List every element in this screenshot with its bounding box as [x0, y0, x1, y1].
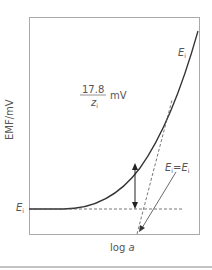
- y-axis-label: EMF/mV: [4, 99, 15, 140]
- fraction-denominator: zi: [91, 97, 98, 109]
- fraction-numerator: 17.8: [82, 84, 104, 95]
- emf-diagram: [0, 0, 212, 270]
- x-axis-label: log a: [110, 242, 135, 253]
- baseline-label: Ei: [16, 202, 24, 214]
- arrow-down-icon: [132, 202, 138, 209]
- plot-frame: [30, 18, 200, 235]
- arrow-up-icon: [132, 163, 138, 170]
- pointer-arrow-icon: [139, 225, 145, 232]
- pointer-line: [142, 172, 176, 228]
- fraction-unit: mV: [110, 90, 127, 101]
- curve-label: Ei: [178, 47, 186, 59]
- intersection-label: Ei=Ei: [165, 162, 189, 174]
- emf-curve: [29, 31, 198, 209]
